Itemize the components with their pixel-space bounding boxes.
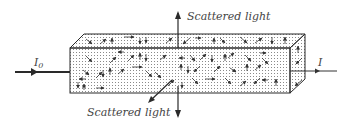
scattering-diagram: I0 I Scattered light Scattered light bbox=[0, 0, 350, 126]
incident-intensity-label: I0 bbox=[33, 56, 43, 70]
transmitted-intensity-label: I bbox=[317, 56, 323, 69]
medium-box bbox=[70, 34, 305, 93]
box-top-face bbox=[70, 34, 305, 48]
scattered-light-top-label: Scattered light bbox=[187, 10, 271, 23]
incident-beam: I0 bbox=[15, 56, 70, 76]
scattered-light-bottom-label: Scattered light bbox=[87, 106, 171, 119]
incident-subscript: 0 bbox=[38, 61, 43, 70]
